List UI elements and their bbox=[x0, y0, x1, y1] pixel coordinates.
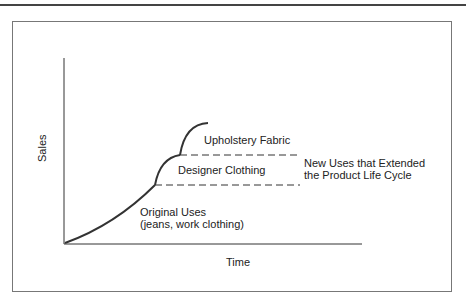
x-axis-label: Time bbox=[226, 256, 250, 268]
designer-clothing-curve bbox=[155, 155, 180, 185]
new-uses-label-line1: New Uses that Extended bbox=[304, 157, 425, 169]
designer-clothing-label: Designer Clothing bbox=[178, 164, 265, 176]
original-uses-detail: (jeans, work clothing) bbox=[140, 218, 244, 230]
y-axis-label: Sales bbox=[36, 134, 48, 162]
original-uses-label: Original Uses bbox=[140, 206, 206, 218]
new-uses-label-line2: the Product Life Cycle bbox=[304, 169, 412, 181]
upholstery-fabric-label: Upholstery Fabric bbox=[204, 134, 290, 146]
